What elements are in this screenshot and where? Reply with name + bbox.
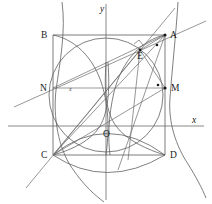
label-point-D: D xyxy=(170,150,177,160)
seg-C-E xyxy=(53,50,140,155)
arc-through-origin-left xyxy=(105,62,165,155)
label-point-C: C xyxy=(41,150,47,160)
label-axis-x: x xyxy=(191,115,197,125)
seg-A-E xyxy=(140,35,165,50)
dot-near-A-interior xyxy=(156,44,159,47)
arc-through-origin-right xyxy=(53,62,109,155)
seg-E-down-to-C-region xyxy=(128,50,140,160)
geometry-figure: A B C D M N E O x y x xyxy=(0,0,212,204)
label-point-A: A xyxy=(170,30,177,40)
arc-bottom xyxy=(53,155,165,173)
dot-near-M-interior xyxy=(157,84,160,87)
label-point-B: B xyxy=(41,30,47,40)
seg-E-M xyxy=(140,50,165,88)
label-point-M: M xyxy=(171,83,180,93)
label-point-N: N xyxy=(40,83,47,93)
label-point-E: E xyxy=(137,51,143,61)
dot-point-A xyxy=(163,33,166,36)
hyperbola-group xyxy=(55,2,206,202)
right-angle-at-E-marker xyxy=(134,40,143,45)
label-axis-y: y xyxy=(99,4,105,14)
label-origin-O: O xyxy=(103,129,110,139)
geometry-canvas: A B C D M N E O x y x xyxy=(0,0,212,204)
label-interior-x-mark: x xyxy=(68,86,72,92)
dot-point-M xyxy=(163,86,166,89)
